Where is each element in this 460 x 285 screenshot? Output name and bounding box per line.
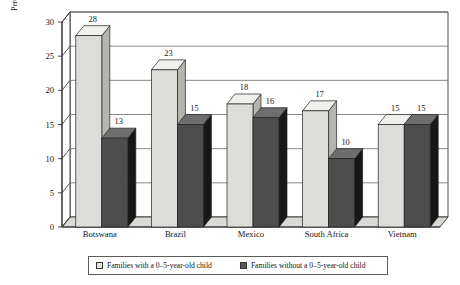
bar-brazil-series1-front xyxy=(151,70,177,227)
legend-swatch-light-icon xyxy=(96,262,103,269)
bar-value-label: 10 xyxy=(335,138,357,147)
bar-brazil-series2-front xyxy=(177,125,203,228)
y-axis-tick-label: 20 xyxy=(38,85,54,95)
bar-mexico-series1-front xyxy=(227,104,253,227)
bar-south-africa-series2-front xyxy=(329,159,355,227)
bar-value-label: 17 xyxy=(309,90,331,99)
x-axis-category-label: South Africa xyxy=(289,229,365,239)
bar-botswana-series1-front xyxy=(76,36,102,227)
y-axis-tick-label: 30 xyxy=(38,17,54,27)
legend-label-families-with: Families with a 0–5-year-old child xyxy=(107,261,212,270)
bar-chart-plot xyxy=(0,0,460,285)
bar-value-label: 13 xyxy=(108,117,130,126)
y-axis-tick-label: 5 xyxy=(38,188,54,198)
bar-south-africa-series1-front xyxy=(303,111,329,227)
legend-label-families-without: Families without a 0–5-year-old child xyxy=(251,261,366,270)
bar-botswana-series2-front xyxy=(102,138,128,227)
bar-botswana-series2-side xyxy=(128,128,136,227)
legend-item-families-without: Families without a 0–5-year-old child xyxy=(240,261,366,270)
bar-vietnam-series2-side xyxy=(430,115,438,228)
bar-value-label: 15 xyxy=(410,104,432,113)
bar-value-label: 18 xyxy=(233,83,255,92)
x-axis-category-label: Botswana xyxy=(62,229,138,239)
bar-value-label: 15 xyxy=(384,104,406,113)
bar-value-label: 23 xyxy=(157,49,179,58)
x-axis-category-label: Brazil xyxy=(138,229,214,239)
chart-legend: Families with a 0–5-year-old child Famil… xyxy=(88,256,388,275)
y-axis-tick-label: 10 xyxy=(38,154,54,164)
y-axis-tick-label: 15 xyxy=(38,120,54,130)
bar-mexico-series2-side xyxy=(279,108,287,227)
y-axis-tick-label: 0 xyxy=(38,222,54,232)
chart-container: Percentage of Households with at Least O… xyxy=(0,0,460,285)
bar-south-africa-series2-side xyxy=(355,149,363,227)
bar-value-label: 28 xyxy=(82,15,104,24)
bar-vietnam-series2-front xyxy=(404,125,430,228)
x-axis-category-label: Vietnam xyxy=(364,229,440,239)
bar-value-label: 15 xyxy=(183,104,205,113)
y-axis-tick-label: 25 xyxy=(38,51,54,61)
bar-brazil-series2-side xyxy=(203,115,211,228)
bar-mexico-series2-front xyxy=(253,118,279,227)
x-axis-category-label: Mexico xyxy=(213,229,289,239)
legend-swatch-dark-icon xyxy=(240,262,247,269)
bar-value-label: 16 xyxy=(259,97,281,106)
legend-item-families-with: Families with a 0–5-year-old child xyxy=(96,261,212,270)
bar-vietnam-series1-front xyxy=(378,125,404,228)
